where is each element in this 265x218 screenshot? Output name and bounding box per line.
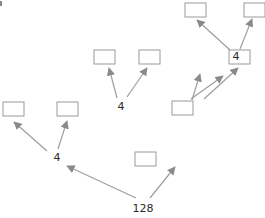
labels: 4 4 4 128 bbox=[54, 50, 240, 215]
boxes bbox=[3, 3, 265, 166]
cropped-fragment bbox=[0, 1, 2, 6]
left-branch-label: 4 bbox=[54, 151, 61, 164]
edge-top-branch-leaf-7 bbox=[240, 19, 252, 49]
leaf-6-box bbox=[185, 3, 206, 17]
root-label: 128 bbox=[133, 202, 154, 215]
edge-root-center-box bbox=[150, 167, 175, 198]
edge-left-branch-leaf-1 bbox=[14, 122, 47, 151]
leaf-3-box bbox=[94, 50, 115, 64]
edges bbox=[14, 19, 252, 198]
edge-left-branch-leaf-2 bbox=[58, 121, 67, 149]
leaf-7-box bbox=[244, 3, 265, 17]
edge-mid-branch-leaf-3 bbox=[109, 68, 117, 98]
tree-diagram: 4 4 4 128 bbox=[0, 0, 265, 218]
leaf-2-box bbox=[57, 102, 78, 116]
leaf-1-box bbox=[3, 102, 24, 116]
center-box bbox=[135, 152, 156, 166]
edge-top-branch-leaf-6 bbox=[197, 20, 230, 50]
top-branch-label: 4 bbox=[233, 50, 240, 63]
edge-mid-branch-leaf-4 bbox=[127, 68, 147, 97]
mid-branch-label: 4 bbox=[118, 100, 125, 113]
mid-right-box bbox=[172, 101, 193, 115]
edge-center-box-mid-right-box bbox=[204, 68, 238, 99]
leaf-4-box bbox=[139, 50, 160, 64]
edge-root-left-branch bbox=[67, 166, 136, 198]
